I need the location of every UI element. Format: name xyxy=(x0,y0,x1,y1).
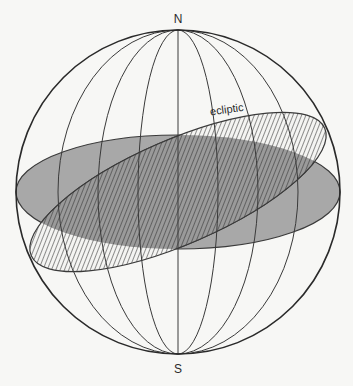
ecliptic-label: ecliptic xyxy=(209,101,244,118)
north-pole-label: N xyxy=(174,12,183,26)
celestial-sphere-diagram: N S ecliptic xyxy=(0,0,353,386)
south-pole-label: S xyxy=(174,362,182,376)
